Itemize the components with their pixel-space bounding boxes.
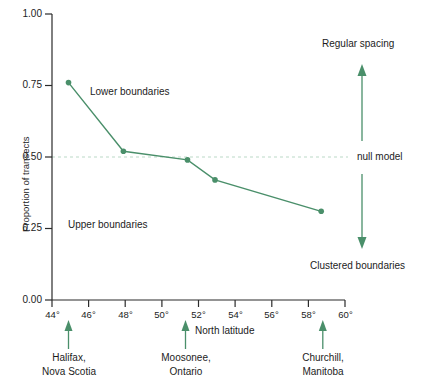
data-point [318,209,324,215]
churchill-arrow [319,320,327,349]
x-tick-label: 54° [219,310,252,321]
city-label-halifax-line2: Nova Scotia [19,366,119,378]
x-tick-label: 60° [329,310,362,321]
city-label-churchill-line2: Manitoba [273,366,373,378]
annotation-clustered-boundaries: Clustered boundaries [310,260,405,272]
city-label-moosonee-line2: Ontario [136,366,236,378]
y-axis-ticks [45,14,52,300]
regular-spacing-arrow [358,64,367,141]
x-tick-label: 48° [109,310,142,321]
city-label-halifax-line1: Halifax, [19,352,119,364]
data-point [185,157,191,163]
x-tick-label: 56° [255,310,288,321]
halifax-arrow [65,320,73,349]
clustered-boundaries-arrow [358,174,367,249]
null-model-label: null model [357,151,403,163]
series-data-points [66,80,324,214]
x-tick-label: 58° [292,310,325,321]
series-line-proportion-of-transects [69,83,322,212]
city-label-churchill-line1: Churchill, [273,352,373,364]
data-point [121,149,127,155]
y-tick-label: 1.00 [6,8,42,20]
y-tick-label: 0.75 [6,79,42,91]
city-label-moosonee-line1: Moosonee, [136,352,236,364]
annotation-lower-boundaries: Lower boundaries [90,86,170,98]
y-axis-title: Proportion of transects [20,136,31,232]
x-tick-label: 44° [36,310,69,321]
x-tick-label: 50° [145,310,178,321]
figure-container: 1.00 0.75 0.50 0.25 0.00 Proportion of t… [0,0,431,384]
x-tick-label: 52° [182,310,215,321]
moosonee-arrow [182,320,190,349]
data-point [66,80,72,86]
data-point [212,177,218,183]
y-tick-label: 0.00 [6,294,42,306]
annotation-upper-boundaries: Upper boundaries [68,219,148,231]
x-axis-title: North latitude [195,325,254,337]
x-tick-label: 46° [72,310,105,321]
x-axis-ticks [52,300,345,307]
annotation-regular-spacing: Regular spacing [322,38,394,50]
